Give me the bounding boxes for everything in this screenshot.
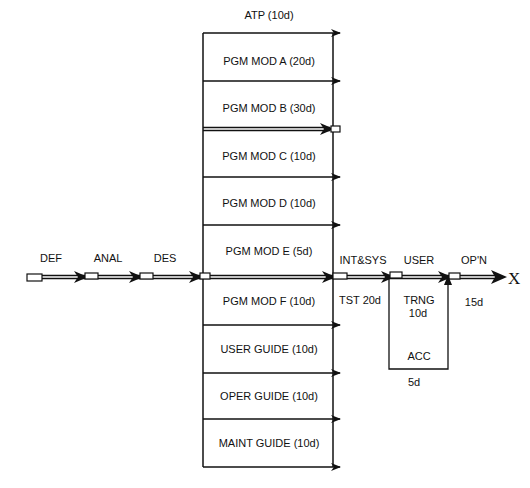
network-diagram [0,0,530,488]
acc-label: ACC [407,350,430,362]
task-label: PGM MOD D (10d) [222,197,316,209]
task-label: USER GUIDE (10d) [220,343,317,355]
def-label: DEF [40,252,62,264]
intsys-duration: TST 20d [339,294,381,306]
opn-duration: 15d [465,296,483,308]
atp-label: ATP (10d) [244,9,293,21]
trng-duration: 10d [409,307,427,319]
critical-task-b [203,123,340,135]
task-label: MAINT GUIDE (10d) [219,437,320,449]
acc-duration: 5d [408,376,420,388]
trng-label: TRNG [403,294,434,306]
user-label: USER [404,254,435,266]
task-label: OPER GUIDE (10d) [220,390,318,402]
intsys-label: INT&SYS [339,254,386,266]
task-label: PGM MOD F (10d) [223,295,315,307]
task-label: PGM MOD B (30d) [223,102,316,114]
opn-label: OP'N [461,254,487,266]
anal-label: ANAL [94,252,123,264]
task-label: PGM MOD C (10d) [222,150,316,162]
task-label: PGM MOD A (20d) [223,55,315,67]
des-label: DES [154,252,177,264]
task-label: PGM MOD E (5d) [226,245,313,257]
end-marker: X [508,270,520,287]
main-path [27,270,507,284]
